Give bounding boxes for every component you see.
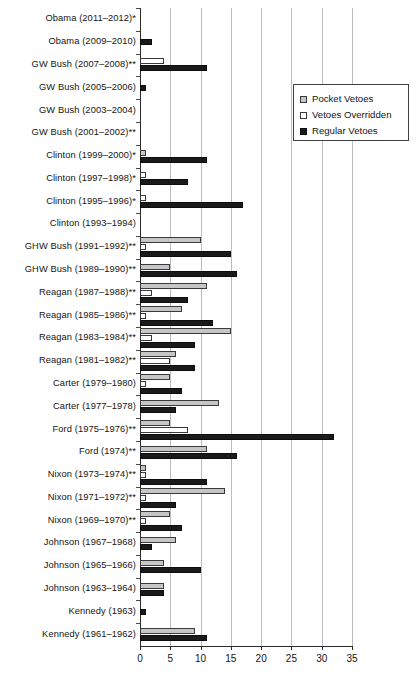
bar-regular-vetoes [140,434,334,440]
legend-swatch-pocket-icon [300,96,307,103]
x-tick-25 [291,646,292,650]
bar-regular-vetoes [140,525,182,531]
bar-pocket-vetoes [140,283,207,289]
category-label: Reagan (1987–1988)** [39,288,136,297]
bar-pocket-vetoes [140,465,146,471]
x-tick-label-30: 30 [316,653,327,664]
x-tick-20 [261,646,262,650]
category-label: Clinton (1999–2000)* [46,151,136,160]
category-label: Johnson (1965–1966) [44,561,136,570]
bar-regular-vetoes [140,297,188,303]
legend-swatch-overridden-icon [300,112,307,119]
bar-regular-vetoes [140,157,207,163]
bar-pocket-vetoes [140,511,170,517]
category-tick [136,122,140,123]
legend-item-pocket-vetoes: Pocket Vetoes [300,91,403,107]
category-label: GHW Bush (1991–1992)** [25,242,136,251]
legend-label-regular: Regular Vetoes [312,126,378,136]
x-tick-label-35: 35 [346,653,357,664]
category-tick [136,76,140,77]
bar-regular-vetoes [140,388,182,394]
category-tick [136,8,140,9]
bar-pocket-vetoes [140,583,164,589]
bar-regular-vetoes [140,39,152,45]
x-tick-label-20: 20 [256,653,267,664]
bar-pocket-vetoes [140,537,176,543]
x-tick-35 [352,646,353,650]
bar-pocket-vetoes [140,150,146,156]
bar-regular-vetoes [140,65,207,71]
bar-pocket-vetoes [140,237,201,243]
bar-regular-vetoes [140,609,146,615]
bar-pocket-vetoes [140,488,225,494]
x-tick-label-0: 0 [137,653,143,664]
bar-regular-vetoes [140,85,146,91]
category-tick [136,532,140,533]
bar-pocket-vetoes [140,400,219,406]
category-label: Nixon (1969–1970)** [48,516,136,525]
category-tick [136,259,140,260]
x-tick-label-5: 5 [168,653,174,664]
x-tick-0 [140,646,141,650]
bar-regular-vetoes [140,202,243,208]
category-tick [136,190,140,191]
bar-pocket-vetoes [140,374,170,380]
category-tick [136,623,140,624]
bar-vetoes-overridden [140,313,146,319]
category-label: Ford (1975–1976)** [53,425,136,434]
x-tick-30 [322,646,323,650]
bar-vetoes-overridden [140,335,152,341]
category-label: Obama (2011–2012)* [45,14,136,23]
bar-vetoes-overridden [140,195,146,201]
category-label: Carter (1977–1978) [53,402,136,411]
gridline-15 [231,8,232,646]
legend-item-vetoes-overridden: Vetoes Overridden [300,107,403,123]
bar-pocket-vetoes [140,446,207,452]
category-label: Clinton (1997–1998)* [46,174,136,183]
category-label: Johnson (1967–1968) [44,538,136,547]
bar-regular-vetoes [140,502,176,508]
category-label: Johnson (1963–1964) [44,584,136,593]
bar-regular-vetoes [140,179,188,185]
category-label: Reagan (1981–1982)** [39,356,136,365]
bar-regular-vetoes [140,342,195,348]
legend-swatch-regular-icon [300,128,307,135]
gridline-5 [170,8,171,646]
x-tick-5 [170,646,171,650]
legend: Pocket Vetoes Vetoes Overridden Regular … [293,84,409,141]
x-tick-15 [231,646,232,650]
category-tick [136,99,140,100]
bar-vetoes-overridden [140,427,188,433]
veto-chart: Obama (2011–2012)*Obama (2009–2010)GW Bu… [0,0,417,700]
bar-regular-vetoes [140,271,237,277]
bar-regular-vetoes [140,365,195,371]
category-tick [136,54,140,55]
gridline-10 [201,8,202,646]
bar-regular-vetoes [140,635,207,641]
category-label: Kennedy (1963) [68,607,136,616]
category-tick [136,441,140,442]
bar-pocket-vetoes [140,628,195,634]
category-label: Carter (1979–1980) [53,379,136,388]
bar-pocket-vetoes [140,351,176,357]
bar-vetoes-overridden [140,495,146,501]
category-tick [136,600,140,601]
legend-label-pocket: Pocket Vetoes [312,94,373,104]
category-label: GW Bush (2007–2008)** [32,60,136,69]
category-label: Kennedy (1961–1962) [42,630,136,639]
x-tick-10 [201,646,202,650]
category-label: Reagan (1985–1986)** [39,311,136,320]
legend-label-overridden: Vetoes Overridden [312,110,391,120]
category-label: Reagan (1983–1984)** [39,333,136,342]
bar-regular-vetoes [140,479,207,485]
category-label: Ford (1974)** [79,447,136,456]
category-label: Nixon (1971–1972)** [48,493,136,502]
x-tick-label-15: 15 [225,653,236,664]
category-label: GW Bush (2001–2002)** [32,128,136,137]
x-tick-label-10: 10 [195,653,206,664]
bar-regular-vetoes [140,590,164,596]
bar-regular-vetoes [140,567,201,573]
bar-regular-vetoes [140,544,152,550]
bar-vetoes-overridden [140,172,146,178]
category-tick [136,145,140,146]
